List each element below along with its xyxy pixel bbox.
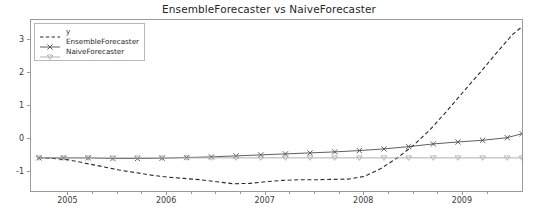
chart-title: EnsembleForecaster vs NaiveForecaster [0,3,538,15]
legend-swatch-ensembleforecaster-icon [39,37,61,47]
y-tick-label: 1 [2,101,24,110]
legend-swatch-naiveforecaster-icon [39,47,61,57]
x-minor-tick-mark [487,192,488,194]
legend-item-y[interactable]: y [39,27,139,37]
x-tick-label: 2009 [452,196,472,205]
x-minor-tick-mark [240,192,241,194]
x-tick-mark [363,192,364,195]
x-tick-label: 2005 [57,196,77,205]
x-tick-mark [265,192,266,195]
x-tick-mark [67,192,68,195]
y-tick-label: 0 [2,134,24,143]
legend-item-naiveforecaster[interactable]: NaiveForecaster [39,47,139,57]
series-ensembleforecaster [36,131,523,161]
x-tick-label: 2006 [156,196,176,205]
x-tick-label: 2007 [254,196,274,205]
x-minor-tick-mark [215,192,216,194]
x-minor-tick-mark [141,192,142,194]
series-naiveforecaster [36,156,523,160]
x-minor-tick-mark [191,192,192,194]
x-minor-tick-mark [117,192,118,194]
y-tick-label: 3 [2,34,24,43]
legend-label: y [66,27,70,37]
y-tick-label: 2 [2,68,24,77]
x-tick-mark [166,192,167,195]
series-line-ensembleforecaster [39,134,522,159]
legend-label: EnsembleForecaster [66,37,139,47]
x-minor-tick-mark [314,192,315,194]
x-minor-tick-mark [388,192,389,194]
legend-item-ensembleforecaster[interactable]: EnsembleForecaster [39,37,139,47]
x-minor-tick-mark [413,192,414,194]
x-minor-tick-mark [92,192,93,194]
x-tick-label: 2008 [353,196,373,205]
x-minor-tick-mark [339,192,340,194]
chart-legend: yEnsembleForecasterNaiveForecaster [34,23,145,61]
x-minor-tick-mark [289,192,290,194]
x-minor-tick-mark [437,192,438,194]
x-tick-mark [462,192,463,195]
chart-figure: EnsembleForecaster vs NaiveForecaster -1… [0,0,538,222]
legend-swatch-y-icon [39,27,61,37]
legend-label: NaiveForecaster [66,47,124,57]
y-tick-label: -1 [2,167,24,176]
